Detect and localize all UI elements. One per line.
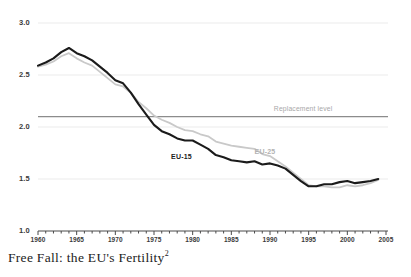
- x-tick-label: 1970: [100, 236, 130, 243]
- gridlines: [38, 23, 388, 179]
- y-tick-label: 2.5: [8, 70, 30, 79]
- y-tick-label: 2.0: [8, 122, 30, 131]
- caption-text: Free Fall: the EU's Fertility: [8, 250, 165, 265]
- x-tick-label: 1985: [216, 236, 246, 243]
- y-tick-label: 1.0: [8, 226, 30, 235]
- y-tick-label: 1.5: [8, 174, 30, 183]
- chart-canvas: [0, 0, 411, 244]
- x-tick-label: 1995: [294, 236, 324, 243]
- series-lines: [38, 48, 378, 187]
- x-tick-label: 1975: [139, 236, 169, 243]
- x-tick-label: 1990: [255, 236, 285, 243]
- y-tick-label: 3.0: [8, 18, 30, 27]
- x-axis: [38, 231, 388, 235]
- x-tick-label: 2000: [332, 236, 362, 243]
- x-tick-label: 1965: [62, 236, 92, 243]
- series-label-eu15: EU-15: [171, 153, 192, 160]
- chart-page: 3.02.52.01.51.0 196019651970197519801985…: [0, 0, 411, 277]
- series-line-eu-25: [38, 53, 378, 187]
- caption-footnote-marker: 2: [165, 249, 169, 258]
- figure-caption: Free Fall: the EU's Fertility2: [8, 249, 169, 266]
- x-tick-label: 2005: [371, 236, 401, 243]
- replacement-level-label: Replacement level: [274, 105, 332, 112]
- x-tick-label: 1960: [23, 236, 53, 243]
- x-tick-label: 1980: [178, 236, 208, 243]
- series-label-eu25: EU-25: [255, 148, 276, 155]
- fertility-line-chart: 3.02.52.01.51.0 196019651970197519801985…: [0, 0, 411, 244]
